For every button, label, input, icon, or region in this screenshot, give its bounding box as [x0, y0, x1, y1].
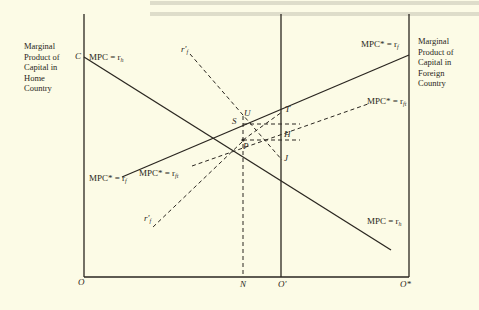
label-O: O — [78, 277, 85, 287]
label-H: H — [284, 129, 291, 139]
label-mpc-home-top: MPC = rh — [89, 52, 124, 66]
rf-prime-line — [190, 54, 282, 160]
label-mpc-foreign-left: MPC* = rf — [89, 173, 127, 187]
mpc-home-line — [84, 57, 391, 250]
label-T: T — [285, 104, 290, 114]
mpc-foreign-line — [122, 55, 409, 177]
label-mpc-foreign-top: MPC* = rf — [361, 39, 399, 53]
label-mpc-foreign-tax-right: MPC* = rft — [367, 96, 406, 110]
label-rf-prime-bottom: r'f — [144, 213, 151, 227]
label-U: U — [244, 108, 251, 118]
capital-allocation-diagram — [0, 0, 479, 310]
label-P: P — [243, 141, 249, 151]
label-O-star: O* — [400, 279, 411, 289]
label-N: N — [240, 279, 246, 289]
label-rf-prime-top: r'f — [181, 44, 188, 58]
label-J: J — [284, 153, 288, 163]
label-mpc-home-bottom: MPC = rh — [367, 216, 402, 230]
left-axis-title: Marginal Product of Capital in Home Coun… — [24, 41, 60, 94]
rf-prime-line-lower — [152, 142, 242, 228]
label-mpc-foreign-tax-left: MPC* = rft — [139, 168, 178, 182]
label-C: C — [75, 51, 81, 61]
label-O-prime: O' — [278, 279, 286, 289]
right-axis-title: Marginal Product of Capital in Foreign C… — [418, 36, 454, 89]
label-S: S — [232, 116, 237, 126]
